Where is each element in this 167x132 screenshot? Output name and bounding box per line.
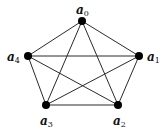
label-a0: a0	[76, 3, 89, 18]
edge-a0-a2	[82, 21, 118, 105]
node-a3	[42, 101, 50, 109]
node-a4	[24, 52, 32, 60]
label-a3: a3	[40, 114, 53, 129]
node-a1	[135, 52, 143, 60]
edge-a2-a4	[28, 56, 118, 105]
node-a0	[78, 17, 86, 25]
label-a2: a2	[113, 114, 126, 129]
edge-a3-a4	[28, 56, 46, 105]
edge-a0-a1	[82, 21, 139, 56]
edge-a1-a2	[118, 56, 139, 105]
node-a2	[114, 101, 122, 109]
edge-a0-a3	[46, 21, 82, 105]
edge-a0-a4	[28, 21, 82, 56]
edge-a1-a3	[46, 56, 139, 105]
label-a4: a4	[7, 50, 20, 65]
edges-group	[28, 21, 139, 105]
label-a1: a1	[147, 50, 160, 65]
graph-canvas: a0a1a2a3a4	[0, 0, 167, 132]
